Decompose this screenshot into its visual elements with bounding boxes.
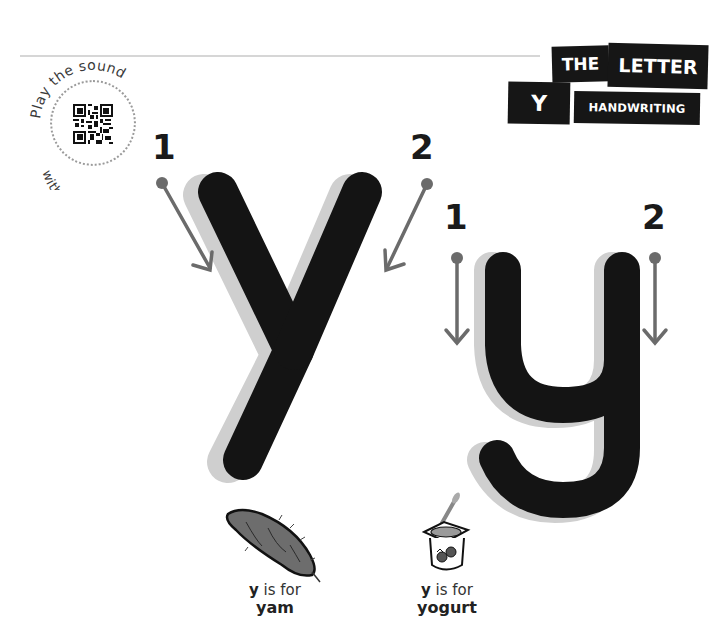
yam-caption-letter: y	[249, 581, 259, 599]
yam-caption-line1: y is for	[220, 582, 330, 599]
uppercase-y-glyph	[218, 192, 362, 460]
yogurt-caption-letter: y	[421, 581, 431, 599]
yogurt-caption-word: yogurt	[392, 599, 502, 617]
yogurt-caption-line1: y is for	[392, 582, 502, 599]
uppercase-stroke-1-start-dot	[156, 177, 168, 189]
yogurt-icon	[424, 491, 468, 569]
lowercase-stroke-1-start-dot	[451, 252, 463, 264]
yam-icon	[227, 510, 320, 582]
lowercase-stroke-2-start-dot	[649, 252, 661, 264]
yogurt-caption-connector: is for	[431, 581, 473, 599]
letters-artwork	[0, 0, 713, 622]
uppercase-stroke-2-start-dot	[421, 178, 433, 190]
yogurt-caption: y is for yogurt	[392, 582, 502, 618]
yam-caption: y is for yam	[220, 582, 330, 618]
yam-caption-connector: is for	[259, 581, 301, 599]
yam-caption-word: yam	[220, 599, 330, 617]
